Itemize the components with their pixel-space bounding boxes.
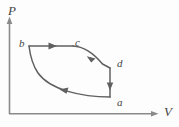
axes-group xyxy=(7,17,159,117)
pressure-axis-label: P xyxy=(8,4,16,17)
cycle-paths-group xyxy=(29,46,110,97)
process-a-to-b xyxy=(29,46,110,97)
process-c-to-d xyxy=(73,46,110,68)
state-label-c: c xyxy=(75,37,80,48)
volume-axis-label: V xyxy=(164,105,172,118)
pv-cycle-svg xyxy=(0,0,179,127)
arrow-c-to-d xyxy=(87,56,96,62)
arrow-b-to-c xyxy=(49,43,58,50)
state-label-a: a xyxy=(117,97,123,108)
direction-arrowheads-group xyxy=(49,43,114,94)
pv-cycle-figure: P V a b c d xyxy=(0,0,179,127)
state-label-b: b xyxy=(19,38,25,49)
state-label-d: d xyxy=(117,58,123,69)
arrow-d-to-a xyxy=(107,83,113,91)
volume-axis-arrowhead xyxy=(151,111,159,117)
